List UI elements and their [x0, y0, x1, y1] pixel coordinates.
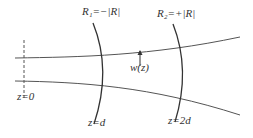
mirror-1-curve: [93, 23, 103, 124]
z0-label: z=0: [17, 90, 34, 102]
mirror-2-curve: [173, 24, 183, 122]
z2d-label: z=2d: [168, 114, 191, 126]
gaussian-beam-diagram: R₁=−|R| R₂=+|R| w(z) z=0 z=d z=2d: [0, 0, 253, 138]
beam-width-label: w(z): [130, 61, 149, 73]
zd-label: z=d: [88, 116, 105, 128]
mirror-2-label: R₂=+|R|: [157, 7, 195, 19]
diagram-canvas: [0, 0, 253, 138]
beam-upper-edge: [15, 37, 240, 58]
beam-lower-edge: [15, 81, 240, 115]
mirror-1-label: R₁=−|R|: [82, 5, 120, 17]
